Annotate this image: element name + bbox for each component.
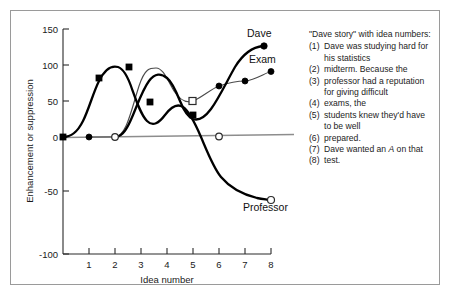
marker-exam-5-open-square	[189, 98, 196, 105]
story-line: for giving difficult	[309, 87, 453, 98]
story-line: (8)test.	[309, 155, 453, 166]
x-tick-label-4: 4	[164, 259, 169, 270]
x-axis-title: Idea number	[140, 274, 193, 285]
story-line: (4)exams, the	[309, 98, 453, 109]
story-line-number: (3)	[309, 76, 324, 87]
series-label-dave: Dave	[247, 27, 272, 39]
marker-dave-8	[261, 43, 267, 49]
x-tick-label-6: 6	[216, 259, 221, 270]
marker-professor-415	[147, 99, 153, 105]
y-axis-ticks	[63, 29, 69, 254]
chart-svg: 150 100 50 0 -50 -100 1 2 3 4 5 6 7 8 Id…	[11, 11, 296, 286]
story-line-number: (2)	[309, 64, 324, 75]
series-label-exam: Exam	[249, 53, 276, 65]
story-line-number: (6)	[309, 133, 324, 144]
story-line: his statistics	[309, 53, 453, 64]
story-line-list: (1)Dave was studying hard forhis statist…	[309, 41, 453, 166]
story-line-text: prepared.	[324, 133, 453, 144]
story-line-text: exams, the	[324, 98, 453, 109]
series-label-professor: Professor	[243, 201, 288, 213]
marker-exam-2-open	[112, 134, 119, 141]
marker-professor-33	[126, 64, 132, 70]
story-line-number: (1)	[309, 41, 324, 52]
story-line: (5)students knew they'd have	[309, 110, 453, 121]
x-tick-label-1: 1	[86, 259, 91, 270]
x-tick-label-7: 7	[242, 259, 247, 270]
story-line-number: (7)	[309, 144, 324, 155]
story-line-text: midterm. Because the	[324, 64, 453, 75]
marker-professor-5	[190, 112, 196, 118]
story-line-text: his statistics	[324, 53, 453, 64]
story-line-number: (5)	[309, 110, 324, 121]
y-tick-label-50: 50	[47, 96, 58, 107]
y-tick-label-neg50: -50	[44, 186, 58, 197]
x-tick-label-3: 3	[138, 259, 143, 270]
marker-professor-0	[60, 134, 66, 140]
x-tick-label-2: 2	[112, 259, 117, 270]
marker-exam-7	[242, 78, 248, 84]
story-panel: "Dave story" with idea numbers: (1)Dave …	[309, 29, 453, 167]
x-tick-label-8: 8	[268, 259, 273, 270]
y-tick-label-0: 0	[53, 132, 58, 143]
story-line-text: for giving difficult	[324, 87, 453, 98]
marker-exam-1	[86, 134, 92, 140]
story-line-text: students knew they'd have	[324, 110, 453, 121]
x-axis-ticks	[89, 248, 271, 254]
story-line-number: (4)	[309, 98, 324, 109]
story-line-number: (8)	[309, 155, 324, 166]
story-line-text: to be well	[324, 121, 453, 132]
marker-professor-2	[96, 75, 102, 81]
story-title: "Dave story" with idea numbers:	[309, 29, 453, 40]
story-line-text: test.	[324, 155, 453, 166]
series-markers	[60, 43, 275, 204]
story-line: (2)midterm. Because the	[309, 64, 453, 75]
x-tick-label-5: 5	[190, 259, 195, 270]
y-tick-label-150: 150	[42, 24, 58, 35]
story-line-text: professor had a reputation	[324, 76, 453, 87]
story-line: (7)Dave wanted an A on that	[309, 144, 453, 155]
y-axis-title: Enhancement or suppression	[24, 79, 35, 203]
story-italic-word: A	[389, 144, 395, 154]
figure-canvas: 150 100 50 0 -50 -100 1 2 3 4 5 6 7 8 Id…	[0, 0, 453, 304]
y-tick-label-100: 100	[42, 60, 58, 71]
figure-frame: 150 100 50 0 -50 -100 1 2 3 4 5 6 7 8 Id…	[10, 10, 440, 285]
story-line: (6)prepared.	[309, 133, 453, 144]
story-line: (1)Dave was studying hard for	[309, 41, 453, 52]
story-line-text: Dave wanted an A on that	[324, 144, 453, 155]
story-line-text: Dave was studying hard for	[324, 41, 453, 52]
marker-exam-6	[216, 83, 222, 89]
marker-exam-8	[268, 69, 274, 75]
story-line: to be well	[309, 121, 453, 132]
chart-plot-area: 150 100 50 0 -50 -100 1 2 3 4 5 6 7 8 Id…	[11, 11, 296, 296]
y-tick-label-neg100: -100	[39, 249, 58, 260]
story-line: (3)professor had a reputation	[309, 76, 453, 87]
series-curve-professor	[63, 67, 270, 200]
marker-professor-6-open	[216, 133, 223, 140]
